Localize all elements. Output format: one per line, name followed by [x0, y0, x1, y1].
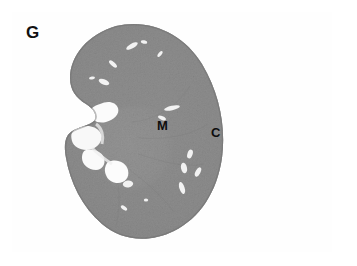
- medulla-label: M: [157, 119, 168, 132]
- figure-panel-g: G M C: [0, 0, 357, 266]
- cortex-label: C: [211, 126, 220, 139]
- kidney-section-icon: [12, 12, 332, 252]
- panel-label-g: G: [26, 24, 39, 41]
- kidney-micrograph-image: [12, 12, 332, 252]
